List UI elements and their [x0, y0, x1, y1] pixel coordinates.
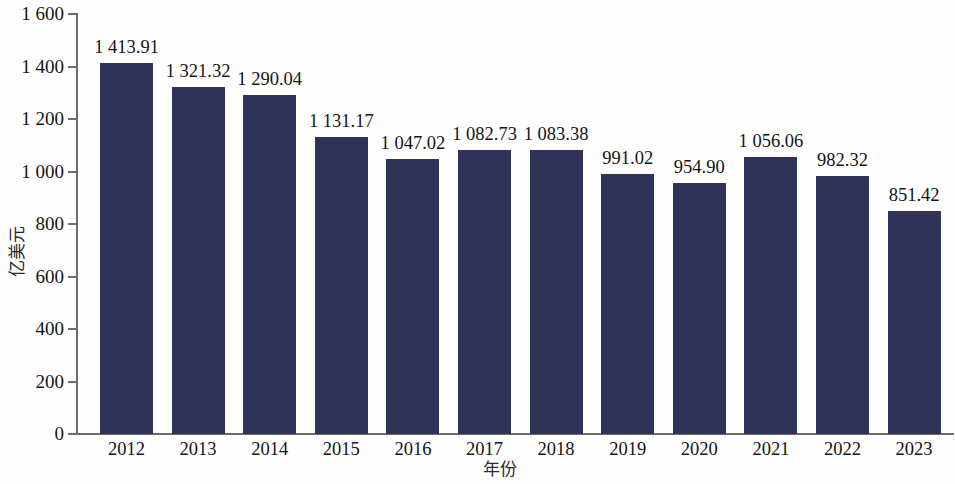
- bar[interactable]: [100, 63, 153, 434]
- y-tick-label-text: 1 200: [2, 109, 64, 128]
- y-tick-label-text: 600: [2, 267, 64, 286]
- x-tick-label: 2015: [301, 440, 381, 459]
- bar[interactable]: [530, 150, 583, 434]
- bar[interactable]: [601, 174, 654, 434]
- bar-value-label: 851.42: [864, 186, 955, 205]
- y-tick-label: 200: [0, 372, 64, 391]
- x-tick-label: 2014: [230, 440, 310, 459]
- y-tick-mark: [68, 433, 76, 435]
- bar[interactable]: [673, 183, 726, 434]
- bar-value-label: 982.32: [793, 151, 893, 170]
- x-tick-label: 2022: [803, 440, 883, 459]
- y-tick-mark: [68, 118, 76, 120]
- y-tick-label-text: 1 600: [2, 4, 64, 23]
- x-tick-label: 2020: [659, 440, 739, 459]
- y-tick-mark: [68, 13, 76, 15]
- bar[interactable]: [458, 150, 511, 434]
- bar[interactable]: [744, 157, 797, 434]
- y-tick-label-text: 200: [2, 372, 64, 391]
- bar-value-label: 1 083.38: [506, 125, 606, 144]
- bar-value-label: 1 131.17: [291, 112, 391, 131]
- y-tick-label: 400: [0, 319, 64, 338]
- y-tick-label: 1 600: [0, 4, 64, 23]
- y-tick-label: 1 200: [0, 109, 64, 128]
- bar[interactable]: [172, 87, 225, 434]
- y-tick-label: 1 400: [0, 57, 64, 76]
- plot-area: 02004006008001 0001 2001 4001 600 1 413.…: [0, 0, 955, 484]
- y-tick-label-text: 1 400: [2, 57, 64, 76]
- y-tick-label: 1 000: [0, 162, 64, 181]
- x-tick-label: 2021: [731, 440, 811, 459]
- y-tick-label-text: 400: [2, 319, 64, 338]
- y-tick-label: 0: [0, 424, 64, 443]
- y-tick-mark: [68, 328, 76, 330]
- y-tick-mark: [68, 223, 76, 225]
- y-tick-mark: [68, 171, 76, 173]
- bar-value-label: 1 056.06: [721, 132, 821, 151]
- bar[interactable]: [888, 211, 941, 434]
- y-tick-mark: [68, 66, 76, 68]
- bar-chart: 亿美元 02004006008001 0001 2001 4001 600 1 …: [0, 0, 955, 484]
- bar[interactable]: [816, 176, 869, 434]
- bar-value-label: 1 413.91: [77, 38, 177, 57]
- bar[interactable]: [243, 95, 296, 434]
- x-axis-title: 年份: [430, 455, 570, 480]
- x-tick-label: 2012: [87, 440, 167, 459]
- bar-value-label: 954.90: [649, 158, 749, 177]
- y-tick-label-text: 0: [2, 424, 64, 443]
- x-tick-label: 2019: [588, 440, 668, 459]
- x-tick-label: 2013: [158, 440, 238, 459]
- y-tick-mark: [68, 276, 76, 278]
- bar[interactable]: [386, 159, 439, 434]
- bar[interactable]: [315, 137, 368, 434]
- y-tick-label-text: 1 000: [2, 162, 64, 181]
- y-tick-label: 800: [0, 214, 64, 233]
- y-tick-mark: [68, 381, 76, 383]
- y-axis-line: [76, 13, 78, 435]
- x-tick-label: 2023: [874, 440, 954, 459]
- y-tick-label-text: 800: [2, 214, 64, 233]
- y-tick-label: 600: [0, 267, 64, 286]
- bar-value-label: 1 290.04: [220, 70, 320, 89]
